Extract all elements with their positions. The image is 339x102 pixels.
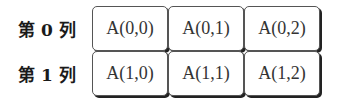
row-label-1: 第 1 列 bbox=[14, 51, 80, 96]
cell-0-0: A(0,0) bbox=[92, 6, 168, 51]
row-label-0: 第 0 列 bbox=[14, 6, 80, 51]
cell-1-0: A(1,0) bbox=[92, 51, 168, 96]
cell-1-2: A(1,2) bbox=[244, 51, 320, 96]
cell-0-1: A(0,1) bbox=[168, 6, 244, 51]
cell-0-2: A(0,2) bbox=[244, 6, 320, 51]
cell-1-1: A(1,1) bbox=[168, 51, 244, 96]
